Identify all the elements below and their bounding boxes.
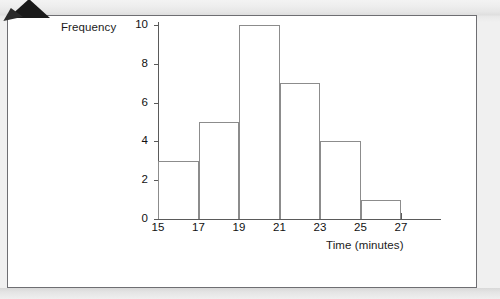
y-tick-mark (154, 103, 159, 104)
y-tick-label: 10 (126, 18, 148, 30)
x-tick-label: 27 (389, 221, 413, 233)
y-tick-mark (154, 141, 159, 142)
y-tick-label: 4 (126, 134, 148, 146)
histogram-bar (199, 122, 240, 219)
y-tick-label: 0 (126, 212, 148, 224)
x-tick-label: 17 (187, 221, 211, 233)
y-tick-label: 8 (126, 57, 148, 69)
y-tick-label: 2 (126, 173, 148, 185)
histogram-bar (239, 25, 280, 219)
x-tick-label: 21 (268, 221, 292, 233)
x-tick-mark (401, 213, 402, 220)
histogram-bar (361, 200, 402, 219)
y-tick-mark (154, 25, 159, 26)
x-tick-label: 19 (227, 221, 251, 233)
x-tick-label: 25 (349, 221, 373, 233)
histogram-chart: Frequency Time (minutes) 024681015171921… (8, 16, 478, 289)
x-axis-line (158, 219, 441, 220)
scan-bottom-band (0, 288, 500, 299)
histogram-bar (158, 161, 199, 219)
x-tick-label: 23 (308, 221, 332, 233)
figure-page: Frequency Time (minutes) 024681015171921… (7, 15, 477, 288)
histogram-bar (320, 141, 361, 219)
x-axis-title: Time (minutes) (326, 239, 404, 251)
y-tick-label: 6 (126, 96, 148, 108)
x-tick-label: 15 (146, 221, 170, 233)
y-axis-title: Frequency (61, 21, 116, 33)
y-tick-mark (154, 64, 159, 65)
histogram-bar (280, 83, 321, 219)
